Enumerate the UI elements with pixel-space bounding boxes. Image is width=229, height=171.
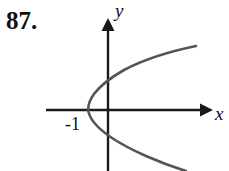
y-axis-arrowhead <box>102 18 115 31</box>
coordinate-plot: y x -1 <box>0 0 229 171</box>
parabola-curve <box>88 46 196 171</box>
x-axis-arrowhead <box>200 104 213 117</box>
x-tick-label-negative-one: -1 <box>65 114 80 134</box>
y-axis-label: y <box>113 0 124 21</box>
x-axis-label: x <box>214 103 224 124</box>
graph-figure: 87. y x -1 <box>0 0 229 171</box>
